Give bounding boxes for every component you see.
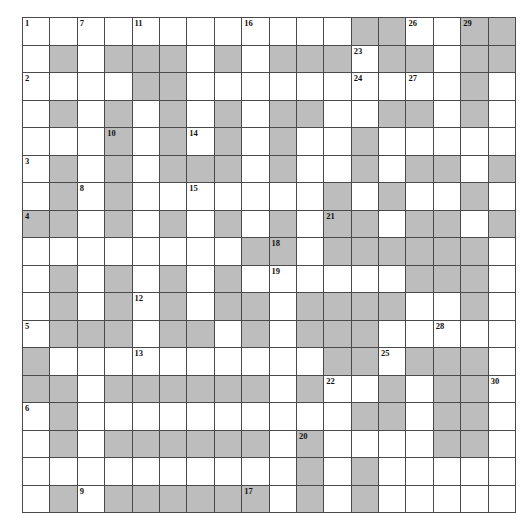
crossword-cell-open[interactable]: [488, 128, 515, 156]
crossword-cell-open[interactable]: [461, 210, 488, 238]
crossword-cell-open[interactable]: [187, 45, 214, 73]
crossword-cell-open[interactable]: [296, 18, 323, 46]
crossword-cell-open[interactable]: [488, 348, 515, 376]
crossword-cell-open[interactable]: [132, 403, 159, 431]
crossword-cell-open[interactable]: 6: [23, 403, 50, 431]
crossword-cell-open[interactable]: [214, 73, 241, 101]
crossword-cell-open[interactable]: 30: [488, 375, 515, 403]
crossword-cell-open[interactable]: [50, 73, 77, 101]
crossword-cell-open[interactable]: [132, 320, 159, 348]
crossword-cell-open[interactable]: [379, 128, 406, 156]
crossword-cell-open[interactable]: [269, 430, 296, 458]
crossword-cell-open[interactable]: [187, 348, 214, 376]
crossword-cell-open[interactable]: [105, 403, 132, 431]
crossword-cell-open[interactable]: [269, 348, 296, 376]
crossword-cell-open[interactable]: [242, 348, 269, 376]
crossword-cell-open[interactable]: [461, 485, 488, 513]
crossword-cell-open[interactable]: [433, 18, 460, 46]
crossword-cell-open[interactable]: [187, 293, 214, 321]
crossword-cell-open[interactable]: [214, 183, 241, 211]
crossword-cell-open[interactable]: [433, 73, 460, 101]
crossword-cell-open[interactable]: [159, 183, 186, 211]
crossword-cell-open[interactable]: [296, 348, 323, 376]
crossword-cell-open[interactable]: [461, 155, 488, 183]
crossword-cell-open[interactable]: [269, 458, 296, 486]
crossword-cell-open[interactable]: [296, 265, 323, 293]
crossword-cell-open[interactable]: [296, 183, 323, 211]
crossword-cell-open[interactable]: [77, 210, 104, 238]
crossword-cell-open[interactable]: [105, 458, 132, 486]
crossword-cell-open[interactable]: [351, 100, 378, 128]
crossword-cell-open[interactable]: [461, 320, 488, 348]
crossword-cell-open[interactable]: [242, 155, 269, 183]
crossword-cell-open[interactable]: [406, 485, 433, 513]
crossword-cell-open[interactable]: [406, 128, 433, 156]
crossword-cell-open[interactable]: [433, 45, 460, 73]
crossword-cell-open[interactable]: [242, 403, 269, 431]
crossword-cell-open[interactable]: [488, 238, 515, 266]
crossword-cell-open[interactable]: [324, 430, 351, 458]
crossword-cell-open[interactable]: 7: [77, 18, 104, 46]
crossword-cell-open[interactable]: [488, 293, 515, 321]
crossword-cell-open[interactable]: [406, 320, 433, 348]
crossword-cell-open[interactable]: [187, 210, 214, 238]
crossword-cell-open[interactable]: [296, 128, 323, 156]
crossword-cell-open[interactable]: [488, 183, 515, 211]
crossword-cell-open[interactable]: [296, 155, 323, 183]
crossword-cell-open[interactable]: [461, 458, 488, 486]
crossword-cell-open[interactable]: [242, 128, 269, 156]
crossword-cell-open[interactable]: [269, 183, 296, 211]
crossword-cell-open[interactable]: [269, 403, 296, 431]
crossword-cell-open[interactable]: [488, 265, 515, 293]
crossword-cell-open[interactable]: [159, 458, 186, 486]
crossword-cell-open[interactable]: [77, 430, 104, 458]
crossword-cell-open[interactable]: 12: [132, 293, 159, 321]
crossword-cell-open[interactable]: [433, 458, 460, 486]
crossword-cell-open[interactable]: [132, 238, 159, 266]
crossword-cell-open[interactable]: [488, 73, 515, 101]
crossword-cell-open[interactable]: [23, 100, 50, 128]
crossword-cell-open[interactable]: 2: [23, 73, 50, 101]
crossword-cell-open[interactable]: [132, 155, 159, 183]
crossword-cell-open[interactable]: 11: [132, 18, 159, 46]
crossword-cell-open[interactable]: [433, 183, 460, 211]
crossword-cell-open[interactable]: 23: [351, 45, 378, 73]
crossword-cell-open[interactable]: [269, 320, 296, 348]
crossword-cell-open[interactable]: [242, 265, 269, 293]
crossword-cell-open[interactable]: [77, 155, 104, 183]
crossword-cell-open[interactable]: [187, 403, 214, 431]
crossword-cell-open[interactable]: 19: [269, 265, 296, 293]
crossword-cell-open[interactable]: [433, 293, 460, 321]
crossword-cell-open[interactable]: [406, 458, 433, 486]
crossword-cell-open[interactable]: [269, 485, 296, 513]
crossword-cell-open[interactable]: 9: [77, 485, 104, 513]
crossword-cell-open[interactable]: [132, 210, 159, 238]
crossword-cell-open[interactable]: [23, 430, 50, 458]
crossword-cell-open[interactable]: [488, 485, 515, 513]
crossword-cell-open[interactable]: [77, 45, 104, 73]
crossword-cell-open[interactable]: [296, 238, 323, 266]
crossword-cell-open[interactable]: [23, 238, 50, 266]
crossword-cell-open[interactable]: [23, 128, 50, 156]
crossword-cell-open[interactable]: [433, 100, 460, 128]
crossword-cell-open[interactable]: [324, 458, 351, 486]
crossword-cell-open[interactable]: [242, 183, 269, 211]
crossword-cell-open[interactable]: 8: [77, 183, 104, 211]
crossword-cell-open[interactable]: [379, 155, 406, 183]
crossword-cell-open[interactable]: [23, 458, 50, 486]
crossword-cell-open[interactable]: [132, 100, 159, 128]
crossword-cell-open[interactable]: [269, 73, 296, 101]
crossword-cell-open[interactable]: [269, 293, 296, 321]
crossword-cell-open[interactable]: [132, 183, 159, 211]
crossword-cell-open[interactable]: 15: [187, 183, 214, 211]
crossword-cell-open[interactable]: [187, 73, 214, 101]
crossword-cell-open[interactable]: [406, 183, 433, 211]
crossword-cell-open[interactable]: [132, 458, 159, 486]
crossword-cell-open[interactable]: [406, 293, 433, 321]
crossword-cell-open[interactable]: 25: [379, 348, 406, 376]
crossword-cell-open[interactable]: [351, 430, 378, 458]
crossword-cell-open[interactable]: 16: [242, 18, 269, 46]
crossword-cell-open[interactable]: [324, 100, 351, 128]
crossword-cell-open[interactable]: [379, 458, 406, 486]
crossword-cell-open[interactable]: [488, 430, 515, 458]
